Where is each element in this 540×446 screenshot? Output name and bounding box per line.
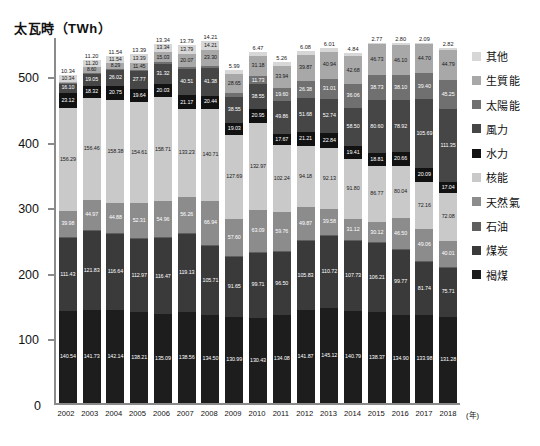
bar-segment[interactable]: 156.46	[83, 98, 101, 201]
bar-column[interactable]: 130.4399.7163.09132.9720.9538.5511.7331.…	[246, 38, 270, 403]
legend-item-褐煤[interactable]: 褐煤	[472, 267, 520, 283]
bar-segment[interactable]	[344, 53, 362, 56]
bar-segment[interactable]	[225, 70, 243, 74]
bar-segment[interactable]: 66.94	[201, 201, 219, 245]
stacked-bar[interactable]: 140.79107.7331.1291.8019.4158.5036.0642.…	[344, 53, 362, 403]
bar-segment[interactable]: 49.06	[415, 229, 433, 261]
bar-segment[interactable]	[439, 267, 457, 268]
bar-segment[interactable]: 75.71	[439, 267, 457, 317]
bar-column[interactable]: 135.09116.4754.96158.7120.0331.3215.0313…	[151, 38, 175, 403]
bar-segment[interactable]	[249, 52, 267, 56]
bar-segment[interactable]: 31.01	[320, 79, 338, 99]
legend-item-其他[interactable]: 其他	[472, 48, 520, 64]
bar-column[interactable]: 141.87105.8349.8794.1821.2151.6826.3839.…	[294, 38, 318, 403]
bar-segment[interactable]	[273, 62, 291, 65]
bar-segment[interactable]: 156.29	[59, 108, 77, 210]
bar-segment[interactable]	[106, 233, 124, 234]
stacked-bar[interactable]: 138.21112.9752.31154.6119.6427.7711.4513…	[130, 54, 148, 403]
bar-segment[interactable]: 11.20	[83, 60, 101, 67]
bar-segment[interactable]: 92.13	[320, 148, 338, 208]
bar-segment[interactable]: 52.31	[130, 203, 148, 237]
bar-segment[interactable]	[130, 70, 148, 71]
bar-segment[interactable]: 30.12	[368, 222, 386, 242]
bar-segment[interactable]: 40.01	[439, 241, 457, 267]
bar-segment[interactable]: 39.58	[320, 209, 338, 235]
bar-segment[interactable]: 23.12	[59, 93, 77, 108]
bar-segment[interactable]: 81.74	[415, 262, 433, 316]
bar-segment[interactable]: 140.54	[59, 311, 77, 403]
stacked-bar[interactable]: 130.4399.7163.09132.9720.9538.5511.7331.…	[249, 52, 267, 403]
bar-segment[interactable]: 138.37	[368, 312, 386, 403]
stacked-bar[interactable]: 142.14116.6444.88158.3820.7526.028.2911.…	[106, 56, 124, 403]
bar-segment[interactable]: 40.51	[178, 69, 196, 96]
bar-segment[interactable]: 110.72	[320, 235, 338, 308]
bar-segment[interactable]: 40.94	[320, 52, 338, 79]
bar-segment[interactable]	[273, 251, 291, 252]
bar-column[interactable]: 134.9099.7746.5080.0420.6678.9238.1046.1…	[389, 38, 413, 403]
bar-segment[interactable]: 59.76	[273, 212, 291, 251]
legend-item-生質能[interactable]: 生質能	[472, 72, 520, 88]
bar-column[interactable]: 134.0896.5059.76102.2417.6749.8619.6033.…	[270, 38, 294, 403]
bar-segment[interactable]: 106.21	[368, 243, 386, 313]
bar-column[interactable]: 138.56119.1356.26133.2321.1740.5120.0713…	[175, 38, 199, 403]
bar-segment[interactable]: 19.05	[83, 73, 101, 85]
bar-segment[interactable]: 31.12	[344, 219, 362, 239]
bar-segment[interactable]: 17.04	[439, 182, 457, 193]
bar-segment[interactable]	[201, 245, 219, 246]
stacked-bar[interactable]: 131.2875.7140.0172.0817.04111.3545.2544.…	[439, 48, 457, 403]
bar-segment[interactable]: 11.54	[106, 56, 124, 64]
bar-segment[interactable]: 39.40	[415, 73, 433, 99]
bar-segment[interactable]: 133.98	[415, 315, 433, 403]
bar-segment[interactable]: 46.50	[392, 218, 410, 248]
bar-column[interactable]: 133.9881.7449.0672.1620.09105.6939.4044.…	[412, 38, 436, 403]
bar-segment[interactable]: 131.28	[439, 317, 457, 403]
bar-segment[interactable]: 11.73	[249, 76, 267, 84]
bar-segment[interactable]: 39.98	[59, 211, 77, 237]
bar-column[interactable]: 134.50105.7166.94140.7120.4441.3823.3014…	[199, 38, 223, 403]
bar-segment[interactable]: 130.99	[225, 317, 243, 403]
bar-segment[interactable]	[320, 48, 338, 52]
bar-segment[interactable]: 20.09	[415, 168, 433, 181]
bar-column[interactable]: 138.37106.2130.1286.7718.8180.6038.7346.…	[365, 38, 389, 403]
bar-segment[interactable]: 22.84	[320, 133, 338, 148]
bar-segment[interactable]: 158.71	[154, 97, 172, 201]
stacked-bar[interactable]: 134.50105.7166.94140.7120.4441.3823.3014…	[201, 41, 219, 403]
bar-segment[interactable]	[59, 82, 77, 83]
bar-segment[interactable]: 111.43	[59, 238, 77, 311]
bar-segment[interactable]: 134.90	[392, 315, 410, 403]
bar-segment[interactable]: 16.10	[59, 83, 77, 94]
legend-item-核能[interactable]: 核能	[472, 169, 520, 185]
bar-segment[interactable]: 23.30	[201, 50, 219, 65]
legend-item-風力[interactable]: 風力	[472, 121, 520, 137]
bar-segment[interactable]: 154.61	[130, 102, 148, 203]
bar-segment[interactable]: 132.97	[249, 123, 267, 210]
bar-segment[interactable]: 14.21	[201, 41, 219, 50]
bar-segment[interactable]: 52.74	[320, 99, 338, 134]
bar-segment[interactable]: 116.64	[106, 233, 124, 309]
bar-segment[interactable]: 134.08	[273, 315, 291, 403]
bar-segment[interactable]: 18.81	[368, 153, 386, 165]
stacked-bar[interactable]: 141.73121.8344.97156.4618.3219.058.6011.…	[83, 60, 101, 403]
bar-segment[interactable]: 20.44	[201, 96, 219, 109]
bar-segment[interactable]: 119.13	[178, 234, 196, 312]
bar-segment[interactable]: 49.87	[297, 207, 315, 240]
bar-segment[interactable]: 31.32	[154, 64, 172, 85]
bar-column[interactable]: 145.12110.7239.5892.1322.8452.7431.0140.…	[317, 38, 341, 403]
bar-segment[interactable]: 28.65	[225, 74, 243, 93]
bar-segment[interactable]: 91.65	[225, 257, 243, 317]
bar-segment[interactable]: 91.80	[344, 159, 362, 219]
bar-segment[interactable]: 138.21	[130, 312, 148, 403]
bar-segment[interactable]: 13.39	[130, 54, 148, 63]
bar-segment[interactable]	[297, 240, 315, 241]
bar-segment[interactable]: 116.47	[154, 238, 172, 314]
bar-segment[interactable]: 20.07	[178, 54, 196, 67]
bar-segment[interactable]: 20.03	[154, 84, 172, 97]
bar-segment[interactable]: 19.41	[344, 146, 362, 159]
bar-segment[interactable]: 107.73	[344, 240, 362, 311]
bar-segment[interactable]	[249, 252, 267, 253]
bar-segment[interactable]	[154, 237, 172, 238]
stacked-bar[interactable]: 145.12110.7239.5892.1322.8452.7431.0140.…	[320, 48, 338, 403]
bar-segment[interactable]: 36.06	[344, 84, 362, 108]
bar-segment[interactable]: 17.67	[273, 134, 291, 146]
bar-segment[interactable]	[154, 62, 172, 63]
